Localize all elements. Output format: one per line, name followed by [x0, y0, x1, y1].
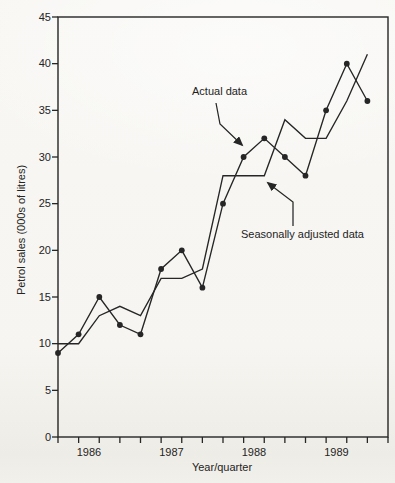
data-point-marker	[344, 61, 350, 67]
data-point-marker	[365, 98, 371, 104]
data-point-marker	[76, 331, 82, 337]
data-point-marker	[117, 322, 123, 328]
y-tick-label: 30	[0, 151, 51, 164]
y-tick-label: 0	[0, 431, 51, 444]
data-point-marker	[158, 266, 164, 272]
plot-border	[58, 17, 388, 437]
data-point-marker	[282, 154, 288, 160]
y-tick-label: 20	[0, 244, 51, 257]
data-point-marker	[303, 173, 309, 179]
y-tick-label: 45	[0, 11, 51, 24]
y-tick-label: 10	[0, 337, 51, 350]
x-year-label: 1987	[141, 446, 201, 459]
data-point-marker	[179, 247, 185, 253]
y-tick-label: 5	[0, 384, 51, 397]
y-tick-label: 35	[0, 104, 51, 117]
annotation-arrow-0	[216, 103, 242, 145]
y-tick-label: 15	[0, 291, 51, 304]
y-tick-label: 40	[0, 57, 51, 70]
annotation-actual-data: Actual data	[192, 85, 247, 97]
data-point-marker	[323, 107, 329, 113]
data-point-marker	[261, 135, 267, 141]
data-point-marker	[241, 154, 247, 160]
data-point-marker	[200, 285, 206, 291]
x-year-label: 1986	[59, 446, 119, 459]
chart-figure: Petrol sales (000s of litres) 0510152025…	[0, 0, 395, 483]
data-point-marker	[55, 350, 61, 356]
x-year-label: 1988	[224, 446, 284, 459]
annotation-arrow-1	[268, 183, 293, 226]
x-year-label: 1989	[306, 446, 366, 459]
data-point-marker	[96, 294, 102, 300]
y-tick-label: 25	[0, 197, 51, 210]
data-point-marker	[220, 201, 226, 207]
petrol-sales-line-chart	[0, 0, 395, 483]
annotation-seasonally-adjusted-data: Seasonally adjusted data	[241, 228, 364, 240]
series-line-seasonally-adjusted	[58, 54, 367, 343]
data-point-marker	[138, 331, 144, 337]
x-axis-title: Year/quarter	[162, 461, 282, 474]
series-line-actual	[58, 64, 367, 353]
